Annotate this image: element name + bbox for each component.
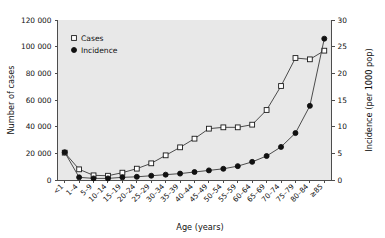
data-point-marker [178, 145, 183, 150]
data-point-marker [163, 153, 168, 158]
left-tick-label: 0 [47, 176, 52, 185]
data-point-marker [221, 166, 226, 171]
right-tick-label: 0 [338, 176, 343, 185]
left-tick-label: 120 000 [21, 16, 52, 25]
left-tick-label: 100 000 [21, 42, 52, 51]
right-tick-label: 10 [338, 122, 348, 131]
plot-area-background [58, 20, 332, 180]
left-tick-label: 40 000 [26, 122, 52, 131]
data-point-marker [293, 56, 298, 61]
right-tick-label: 20 [338, 69, 348, 78]
right-tick-label: 5 [338, 149, 343, 158]
legend-label: Incidence [81, 46, 118, 55]
data-point-marker [149, 161, 154, 166]
data-point-marker [264, 154, 269, 159]
data-point-marker [250, 159, 255, 164]
x-axis-ticks: <11–45–910–1415–1920–2425–2930–3435–3940… [51, 180, 324, 204]
y-axis-title: Number of cases [6, 65, 16, 134]
data-point-marker [134, 174, 139, 179]
data-point-marker [134, 166, 139, 171]
data-point-marker [264, 108, 269, 113]
x-tick-label: <1 [51, 182, 65, 196]
data-point-marker [120, 170, 125, 175]
data-point-marker [250, 122, 255, 127]
right-tick-label: 30 [338, 16, 348, 25]
right-tick-label: 25 [338, 42, 348, 51]
data-point-marker [178, 171, 183, 176]
data-point-marker [322, 48, 327, 53]
data-point-marker [149, 173, 154, 178]
data-point-marker [235, 164, 240, 169]
left-tick-label: 60 000 [26, 96, 52, 105]
data-point-marker [77, 167, 82, 172]
x-tick-label: ≥85 [308, 182, 325, 199]
age-cases-incidence-chart: 020 00040 00060 00080 000100 000120 000 … [0, 0, 385, 238]
data-point-marker [235, 125, 240, 130]
left-tick-label: 20 000 [26, 149, 52, 158]
y2-axis-title: Incidence (per 1000 pop) [364, 48, 374, 151]
data-point-marker [105, 176, 110, 181]
data-point-marker [307, 103, 312, 108]
data-point-marker [322, 36, 327, 41]
data-point-marker [91, 176, 96, 181]
data-point-marker [279, 144, 284, 149]
x-axis-title: Age (years) [176, 222, 223, 232]
right-axis-ticks: 051015202530 [332, 16, 348, 185]
data-point-marker [192, 136, 197, 141]
legend-marker-incidence [72, 48, 77, 53]
x-tick-label: 1–4 [64, 182, 80, 198]
chart-figure: 020 00040 00060 00080 000100 000120 000 … [0, 0, 385, 238]
data-point-marker [77, 175, 82, 180]
left-tick-label: 80 000 [26, 69, 52, 78]
data-point-marker [207, 126, 212, 131]
data-point-marker [293, 131, 298, 136]
data-point-marker [163, 172, 168, 177]
data-point-marker [62, 150, 67, 155]
data-point-marker [279, 84, 284, 89]
right-tick-label: 15 [338, 96, 348, 105]
data-point-marker [221, 125, 226, 130]
legend-marker-cases [72, 36, 77, 41]
data-point-marker [192, 170, 197, 175]
data-point-marker [206, 168, 211, 173]
legend-label: Cases [81, 34, 104, 43]
left-axis-ticks: 020 00040 00060 00080 000100 000120 000 [21, 16, 58, 185]
data-point-marker [307, 57, 312, 62]
data-point-marker [120, 175, 125, 180]
